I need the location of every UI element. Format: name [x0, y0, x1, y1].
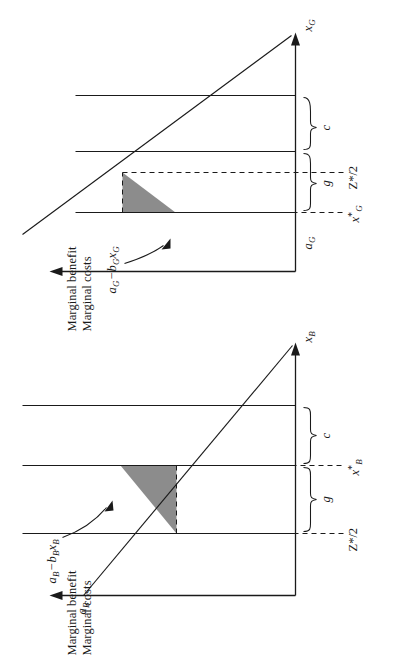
brace-label-c-b: c	[318, 432, 333, 438]
curve-eq-g-a-sub: G	[110, 280, 120, 287]
axis-caption-g: Marginal benefit Marginal costs	[64, 246, 94, 331]
intercept-label-b: aB	[74, 602, 90, 614]
curve-label-pointer-b	[62, 507, 106, 537]
intercept-label-g-base: a	[300, 243, 314, 249]
panel-g: Marginal benefit Marginal costs aG xG aG…	[0, 0, 409, 311]
curve-label-pointer-arrowhead-g	[161, 238, 170, 249]
curve-eq-b-a-sub: B	[50, 571, 60, 577]
curve-equation-label-g: aG−bGxG	[104, 246, 120, 293]
x-axis-label-b-sub: B	[306, 331, 316, 337]
panel-g-graphics	[0, 0, 409, 311]
shaded-triangle-b	[120, 465, 176, 533]
shaded-triangle-g	[122, 172, 175, 212]
curve-eq-b-a: a	[44, 577, 58, 583]
curve-eq-b-b: b	[44, 556, 58, 562]
x-axis-label-b: xB	[300, 331, 316, 342]
tick-label-xstar-b: x*B	[345, 459, 363, 475]
tick-label-zstar-b: Z*/2	[345, 527, 360, 551]
brace-c-g	[303, 97, 316, 149]
curve-eq-b-x-sub: B	[50, 539, 60, 545]
tick-xstar-g-sub: G	[353, 205, 363, 212]
curve-eq-g-x-sub: G	[110, 246, 120, 253]
brace-label-c-g: c	[318, 124, 333, 130]
intercept-label-b-base: a	[74, 608, 88, 614]
curve-eq-b-b-sub: B	[50, 550, 60, 556]
curve-eq-g-x: x	[104, 253, 118, 259]
curve-label-pointer-g	[124, 245, 163, 263]
x-axis-label-b-base: x	[300, 336, 314, 342]
intercept-label-g-sub: G	[306, 236, 316, 243]
y-axis-arrowhead-g	[49, 267, 62, 276]
brace-g-b	[303, 467, 316, 531]
panel-b-graphics	[0, 311, 409, 641]
panel-b: Marginal benefit Marginal costs aB xB aB…	[0, 311, 409, 641]
brace-label-g-b: g	[318, 496, 333, 502]
x-axis-label-g-sub: G	[306, 19, 316, 26]
intercept-label-g: aG	[300, 236, 316, 249]
brace-c-b	[303, 407, 316, 463]
brace-label-g-g: g	[318, 180, 333, 186]
intercept-label-b-sub: B	[80, 602, 90, 608]
curve-eq-g-b: b	[104, 265, 118, 271]
curve-eq-b-minus: −	[44, 562, 58, 571]
tick-xstar-b-sub: B	[353, 459, 363, 465]
tick-xstar-b-star: *	[345, 464, 356, 469]
tick-label-xstar-g: x*G	[345, 205, 363, 222]
curve-equation-label-b: aB−bBxB	[44, 539, 60, 583]
marginal-benefit-line-b	[83, 345, 292, 595]
x-axis-arrowhead-b	[291, 342, 300, 355]
curve-eq-g-b-sub: G	[110, 258, 120, 265]
curve-eq-g-a: a	[104, 287, 118, 293]
x-axis-label-g: xG	[300, 19, 316, 31]
brace-g-g	[303, 153, 316, 210]
axis-caption-g-line1: Marginal benefit	[64, 246, 79, 331]
y-axis-arrowhead-b	[49, 591, 62, 600]
tick-xstar-b-base: x	[348, 469, 362, 475]
x-axis-arrowhead-g	[291, 32, 300, 45]
curve-eq-g-minus: −	[104, 271, 118, 280]
tick-label-zstar-g: Z*/2	[345, 165, 360, 189]
tick-xstar-g-base: x	[348, 216, 362, 222]
x-axis-label-g-base: x	[300, 25, 314, 31]
tick-xstar-g-star: *	[345, 211, 356, 216]
axis-caption-g-line2: Marginal costs	[79, 246, 94, 331]
curve-eq-b-x: x	[44, 545, 58, 551]
